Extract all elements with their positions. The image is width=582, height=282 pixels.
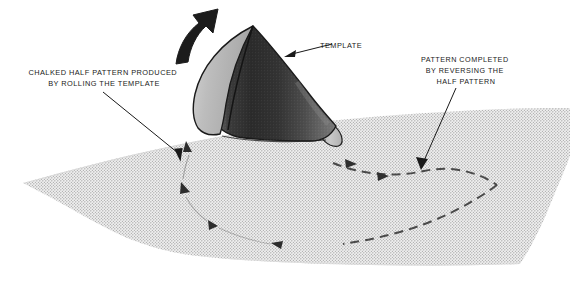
illustration-canvas: TEMPLATE CHALKED HALF PATTERN PRODUCED B… — [0, 0, 582, 282]
left-callout-leader-line — [103, 92, 178, 153]
right-callout-line-2: HALF PATTERN — [437, 77, 496, 86]
roll-arrow-shape — [176, 9, 218, 64]
right-callout-label: PATTERN COMPLETED BY REVERSING THE HALF … — [421, 55, 511, 86]
right-callout-line-1: BY REVERSING THE — [426, 66, 504, 75]
right-callout-line-0: PATTERN COMPLETED — [421, 55, 509, 64]
left-callout-line-0: CHALKED HALF PATTERN PRODUCED — [28, 68, 177, 77]
technical-illustration: TEMPLATE CHALKED HALF PATTERN PRODUCED B… — [0, 0, 582, 282]
template-leader-arrowhead — [284, 50, 296, 57]
left-callout-line-1: BY ROLLING THE TEMPLATE — [48, 79, 160, 88]
template-label: TEMPLATE — [320, 41, 362, 50]
roll-direction-arrow — [176, 9, 218, 64]
left-callout-label: CHALKED HALF PATTERN PRODUCED BY ROLLING… — [28, 68, 179, 88]
template-label-line-0: TEMPLATE — [320, 41, 362, 50]
